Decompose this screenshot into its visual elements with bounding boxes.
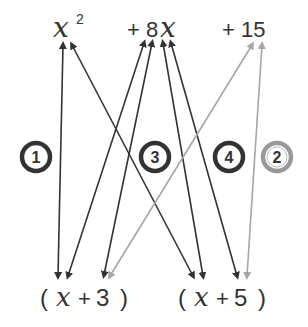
svg-text:2: 2 — [273, 149, 282, 166]
arrow-15-to-5 — [247, 45, 262, 276]
svg-text:1: 1 — [32, 149, 41, 166]
factor-constant: 5 — [234, 284, 247, 311]
step-badge-1: 1 — [22, 143, 50, 171]
paren-close: ) — [120, 284, 128, 311]
step-badge-4: 4 — [215, 143, 243, 171]
factor-x: x — [56, 282, 71, 312]
factor-constant: 3 — [96, 284, 109, 311]
factor-x-plus-3: ( x + 3 ) — [40, 282, 128, 312]
svg-text:4: 4 — [225, 149, 234, 166]
arrow-x-to-x2 — [58, 45, 63, 276]
factor-x: x — [194, 282, 209, 312]
diagram-canvas: x 2 + 8 x + 15 ( x + 3 ) ( x + 5 ) 1 3 4… — [0, 0, 308, 327]
step-badge-2: 2 — [263, 143, 291, 171]
term-x-linear: x — [160, 11, 176, 44]
svg-text:3: 3 — [151, 149, 160, 166]
step-badge-3: 3 — [141, 143, 169, 171]
term-plus-8: + 8 — [127, 17, 158, 42]
factor-x-plus-5: ( x + 5 ) — [178, 282, 266, 312]
factor-plus: + — [216, 286, 229, 311]
paren-open: ( — [178, 284, 186, 311]
paren-close: ) — [258, 284, 266, 311]
expression-trinomial: x 2 + 8 x + 15 — [53, 11, 265, 44]
term-exponent: 2 — [76, 11, 84, 27]
paren-open: ( — [40, 284, 48, 311]
term-plus-15: + 15 — [222, 17, 265, 42]
term-x: x — [53, 11, 69, 44]
factor-plus: + — [78, 286, 91, 311]
factoring-diagram: x 2 + 8 x + 15 ( x + 3 ) ( x + 5 ) 1 3 4… — [0, 0, 308, 327]
